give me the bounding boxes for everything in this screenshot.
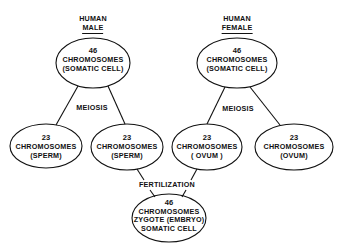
cell-type-text: (OVUM) [264,151,325,160]
cell-type-text: (SOMATIC CELL) [207,64,268,73]
chromosomes-text: CHROMOSOMES [63,55,124,64]
chromosomes-text: CHROMOSOMES [16,142,77,151]
female-header-line1: HUMAN [222,14,253,23]
female-somatic-label: 46 CHROMOSOMES (SOMATIC CELL) [207,46,268,73]
cell-type-text: (SPERM) [97,151,158,160]
ovum-right-label: 23 CHROMOSOMES (OVUM) [264,133,325,160]
chromosome-count: 23 [97,133,158,142]
chromosomes-text: CHROMOSOMES [207,55,268,64]
cell-type-text: SOMATIC CELL [134,225,205,234]
male-meiosis-line-right [108,86,125,124]
chromosome-count: 23 [177,133,238,142]
chromosomes-text: CHROMOSOMES [177,142,238,151]
female-header-line2: FEMALE [222,23,253,34]
chromosome-count: 46 [207,46,268,55]
chromosome-count: 46 [63,46,124,55]
female-header: HUMAN FEMALE [222,14,253,32]
sperm-left-label: 23 CHROMOSOMES (SPERM) [16,133,77,160]
cell-type-text: (SPERM) [16,151,77,160]
zygote-label: 46 CHROMOSOMES ZYGOTE (EMBRYO) SOMATIC C… [134,199,205,233]
male-meiosis-label: MEIOSIS [76,103,107,112]
chromosome-count: 23 [264,133,325,142]
female-meiosis-line-right [250,87,280,125]
chromosomes-text: CHROMOSOMES [97,142,158,151]
male-header: HUMAN MALE [79,14,107,32]
male-header-line2: MALE [82,23,103,34]
female-meiosis-label: MEIOSIS [222,104,253,113]
male-meiosis-line-left [56,86,78,125]
cell-type-text: (SOMATIC CELL) [63,64,124,73]
male-somatic-label: 46 CHROMOSOMES (SOMATIC CELL) [63,46,124,73]
sperm-right-label: 23 CHROMOSOMES (SPERM) [97,133,158,160]
fertilization-label: FERTILIZATION [139,180,195,189]
male-header-line1: HUMAN [79,14,107,23]
cell-type-text: ( OVUM ) [177,151,238,160]
chromosomes-text: CHROMOSOMES [264,142,325,151]
chromosome-count: 23 [16,133,77,142]
fertilization-line-right [191,169,197,180]
fertilization-line-left [137,169,144,180]
ovum-left-label: 23 CHROMOSOMES ( OVUM ) [177,133,238,160]
